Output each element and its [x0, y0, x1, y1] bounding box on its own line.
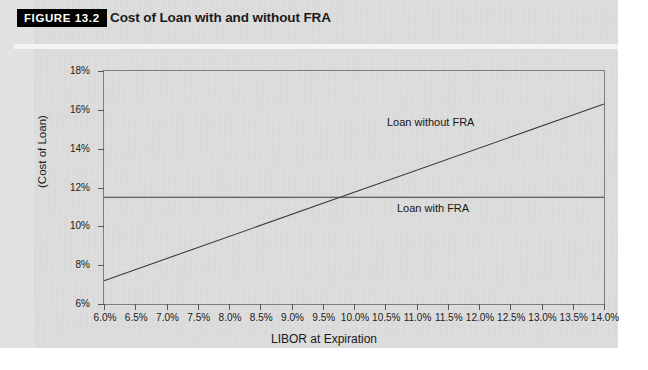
x-axis-tick-label: 10.5%	[372, 312, 400, 323]
x-axis-tick-label: 6.5%	[125, 312, 148, 323]
x-axis-tick: 11.5%	[448, 304, 449, 310]
figure-title: Cost of Loan with and without FRA	[110, 10, 331, 25]
x-axis-tick: 6.0%	[104, 304, 105, 310]
y-axis-tick: 12%	[98, 188, 104, 189]
x-axis-tick-label: 8.5%	[250, 312, 273, 323]
annotation-loan-with-fra: Loan with FRA	[397, 202, 469, 214]
x-axis-tick-label: 11.5%	[435, 312, 463, 323]
x-axis-tick-label: 13.5%	[560, 312, 588, 323]
x-axis-tick-label: 8.0%	[219, 312, 242, 323]
scanned-page-right-margin	[618, 0, 648, 348]
scanned-page-highlight-band	[14, 44, 620, 49]
x-axis-label: LIBOR at Expiration	[0, 332, 648, 346]
x-axis-tick-label: 9.0%	[281, 312, 304, 323]
series-lines	[104, 71, 604, 304]
x-axis-tick: 11.0%	[417, 304, 418, 310]
x-axis-tick-label: 9.5%	[312, 312, 335, 323]
x-axis-tick-label: 12.5%	[497, 312, 525, 323]
y-axis-tick: 8%	[98, 265, 104, 266]
y-axis-tick-label: 8%	[76, 259, 90, 270]
x-axis-tick: 13.5%	[573, 304, 574, 310]
y-axis-tick-label: 16%	[70, 104, 90, 115]
y-axis-label: (Cost of Loan)	[36, 115, 48, 188]
chart-plot-area: Loan without FRA Loan with FRA 6%8%10%12…	[103, 70, 605, 305]
y-axis-tick: 10%	[98, 226, 104, 227]
y-axis-tick-label: 6%	[76, 298, 90, 309]
x-axis-tick: 6.5%	[135, 304, 136, 310]
x-axis-tick-label: 13.0%	[528, 312, 556, 323]
x-axis-tick: 10.5%	[385, 304, 386, 310]
x-axis-tick: 8.0%	[229, 304, 230, 310]
y-axis-tick-label: 14%	[70, 143, 90, 154]
x-axis-tick: 12.5%	[510, 304, 511, 310]
x-axis-tick: 8.5%	[260, 304, 261, 310]
x-axis-tick: 10.0%	[354, 304, 355, 310]
y-axis-tick-label: 12%	[70, 182, 90, 193]
y-axis-tick: 18%	[98, 71, 104, 72]
x-axis-tick: 12.0%	[479, 304, 480, 310]
x-axis-tick: 9.5%	[323, 304, 324, 310]
x-axis-tick-label: 7.0%	[156, 312, 179, 323]
x-axis-tick: 7.0%	[167, 304, 168, 310]
x-axis-tick: 7.5%	[198, 304, 199, 310]
x-axis-tick: 13.0%	[542, 304, 543, 310]
x-axis-tick: 14.0%	[604, 304, 605, 310]
y-axis-tick-label: 18%	[70, 65, 90, 76]
x-axis-tick-label: 14.0%	[591, 312, 619, 323]
x-axis-tick-label: 11.0%	[404, 312, 432, 323]
scanned-page-left-margin	[0, 0, 34, 348]
x-axis-tick-label: 6.0%	[94, 312, 117, 323]
y-axis-tick-label: 10%	[70, 220, 90, 231]
x-axis-tick-label: 10.0%	[341, 312, 369, 323]
figure-number-badge: FIGURE 13.2	[17, 9, 107, 27]
figure-page: FIGURE 13.2 Cost of Loan with and withou…	[0, 0, 648, 370]
plot-inner: Loan without FRA Loan with FRA 6%8%10%12…	[104, 71, 604, 304]
x-axis-tick: 9.0%	[292, 304, 293, 310]
x-axis-tick-label: 12.0%	[466, 312, 494, 323]
y-axis-tick: 14%	[98, 149, 104, 150]
x-axis-tick-label: 7.5%	[187, 312, 210, 323]
annotation-loan-without-fra: Loan without FRA	[387, 116, 474, 128]
y-axis-tick: 16%	[98, 110, 104, 111]
series-line-loan-without-fra	[104, 104, 604, 281]
